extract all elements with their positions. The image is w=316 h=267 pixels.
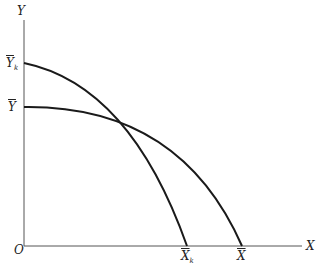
x-tick-x: X [237, 250, 246, 262]
y-tick-y: Y [8, 101, 16, 113]
diagram: Y X O Yk Y Xk X [0, 0, 316, 267]
origin-label: O [14, 244, 24, 256]
curve-y-x [24, 107, 242, 246]
x-tick-xk: Xk [181, 250, 194, 265]
curve-yk-xk [24, 63, 187, 246]
diagram-canvas [0, 0, 316, 267]
y-tick-yk: Yk [6, 57, 18, 72]
y-axis-label: Y [17, 5, 25, 17]
x-axis-label: X [306, 240, 315, 252]
